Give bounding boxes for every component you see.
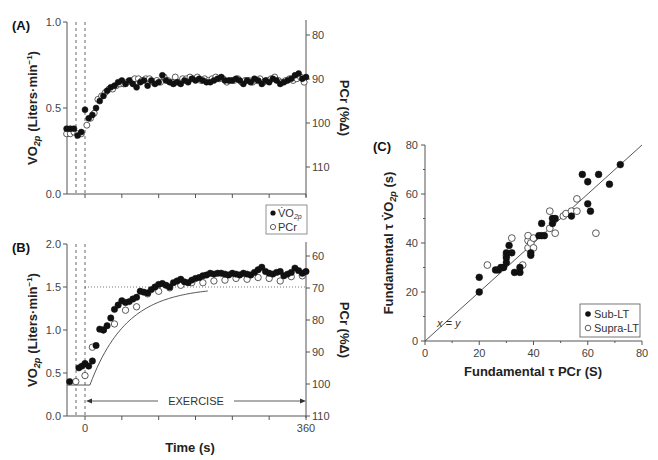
open-data-point [84, 122, 90, 128]
filled-data-point [82, 107, 88, 113]
svg-text:0: 0 [422, 347, 428, 359]
svg-text:VO2p(Liters·min−1): VO2p(Liters·min−1) [25, 273, 42, 387]
svg-text:80: 80 [312, 29, 324, 41]
x-tick-0: 0 [82, 422, 88, 434]
exercise-label: EXERCISE [168, 395, 224, 407]
svg-text:Sub-LT: Sub-LT [594, 308, 630, 320]
svg-text:90: 90 [312, 73, 324, 85]
open-data-point [73, 378, 79, 384]
panel-c-legend: Sub-LT Supra-LT [580, 304, 640, 337]
filled-data-point [584, 200, 591, 207]
svg-text:PCr (%Δ): PCr (%Δ) [337, 80, 352, 136]
panel-a-y-ticks: 0.00.51.0 [46, 16, 67, 200]
filled-data-point [108, 315, 114, 321]
svg-text:1.0: 1.0 [46, 16, 61, 28]
open-data-point [508, 235, 515, 242]
filled-data-point [93, 105, 99, 111]
filled-data-point [133, 294, 139, 300]
filled-data-point [159, 72, 165, 78]
legend-supra-lt-icon [585, 325, 591, 331]
svg-text:80: 80 [312, 314, 324, 326]
open-data-point [133, 304, 139, 310]
svg-text:60: 60 [582, 347, 594, 359]
filled-data-point [568, 213, 575, 220]
filled-data-point [104, 323, 110, 329]
svg-text:0.5: 0.5 [46, 367, 61, 379]
filled-data-point [579, 171, 586, 178]
svg-text:0.5: 0.5 [46, 102, 61, 114]
filled-data-point [89, 112, 95, 118]
svg-text:60: 60 [312, 250, 324, 262]
filled-data-point [552, 215, 559, 222]
panel-b-right-ticks: 60708090100110 [306, 250, 330, 422]
legend-filled-circle-icon [270, 210, 275, 215]
svg-text:100: 100 [312, 117, 330, 129]
filled-data-point [141, 77, 147, 83]
legend-open-circle-icon [270, 224, 275, 229]
open-data-point [592, 230, 599, 237]
svg-text:90: 90 [312, 346, 324, 358]
filled-data-point [296, 71, 302, 77]
svg-text:0.0: 0.0 [46, 410, 61, 422]
svg-text:110: 110 [312, 410, 330, 422]
svg-text:1.5: 1.5 [46, 281, 61, 293]
svg-text:110: 110 [312, 161, 330, 173]
filled-data-point [606, 181, 613, 188]
x-tick-360: 360 [297, 422, 315, 434]
filled-data-point [476, 274, 483, 281]
svg-text:40: 40 [406, 237, 418, 249]
panel-c-label: (C) [373, 139, 391, 154]
open-data-point [546, 208, 553, 215]
filled-data-point [595, 171, 602, 178]
panel-a-x-ticks [85, 194, 306, 198]
svg-text:2.0: 2.0 [46, 238, 61, 250]
filled-data-point [78, 129, 84, 135]
filled-data-point [617, 161, 624, 168]
panel-b-x-ticks [85, 416, 306, 420]
filled-data-point [538, 220, 545, 227]
open-data-point [111, 321, 117, 327]
filled-data-point [93, 342, 99, 348]
svg-text:0: 0 [412, 335, 418, 347]
filled-data-point [584, 178, 591, 185]
filled-data-point [303, 268, 309, 274]
panel-a: (A) 0.00.51.0 8090100110 VO2p(Liters·min… [12, 16, 352, 234]
panel-c-y-label: Fundamental τ V̇O2p (s) [381, 172, 398, 315]
identity-label: x = y [436, 317, 462, 329]
panel-c-x-label: Fundamental τ PCr (S) [464, 364, 602, 379]
open-data-point [211, 278, 217, 284]
filled-data-point [541, 232, 548, 239]
open-data-point [552, 230, 559, 237]
panel-b-data-points [66, 264, 309, 385]
svg-text:PCr (%Δ): PCr (%Δ) [337, 302, 352, 358]
svg-text:PCr: PCr [278, 221, 297, 233]
panel-a-legend: V̇O2p PCr [266, 205, 307, 234]
filled-data-point [508, 249, 515, 256]
figure: (A) 0.00.51.0 8090100110 VO2p(Liters·min… [0, 0, 658, 460]
svg-text:Fundamental τ V̇O2p (s): Fundamental τ V̇O2p (s) [381, 172, 398, 315]
panel-a-label: (A) [12, 18, 30, 33]
svg-text:70: 70 [312, 282, 324, 294]
panel-b-y-ticks: 0.00.51.01.52.0 [46, 238, 67, 422]
svg-text:20: 20 [473, 347, 485, 359]
filled-data-point [71, 126, 77, 132]
svg-text:Supra-LT: Supra-LT [594, 322, 639, 334]
panel-a-data-points [64, 71, 309, 139]
filled-data-point [156, 79, 162, 85]
open-data-point [484, 262, 491, 269]
filled-data-point [66, 378, 72, 384]
panel-b-y-label: VO2p(Liters·min−1) [25, 273, 42, 387]
svg-text:VO2p(Liters·min−1): VO2p(Liters·min−1) [25, 51, 42, 165]
legend-sub-lt-icon [585, 311, 591, 317]
svg-text:0.0: 0.0 [46, 188, 61, 200]
filled-data-point [517, 264, 524, 271]
panel-b-right-label: PCr (%Δ) [337, 302, 352, 358]
svg-text:80: 80 [636, 347, 648, 359]
open-data-point [82, 372, 88, 378]
svg-text:40: 40 [527, 347, 539, 359]
panel-a-y-label: VO2p(Liters·min−1) [25, 51, 42, 165]
filled-data-point [587, 208, 594, 215]
panel-a-right-ticks: 8090100110 [306, 29, 330, 173]
filled-data-point [97, 98, 103, 104]
panel-a-right-label: PCr (%Δ) [337, 80, 352, 136]
